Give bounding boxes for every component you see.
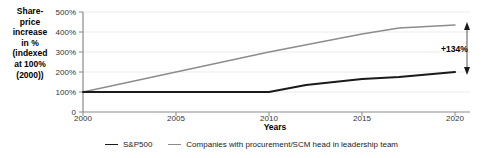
legend-swatch-icon <box>105 144 118 145</box>
legend-swatch-icon <box>168 144 181 145</box>
legend-item-sp500[interactable]: S&P500 <box>105 140 152 149</box>
legend-label: Companies with procurement/SCM head in l… <box>186 140 398 149</box>
x-axis-title: Years <box>215 122 335 132</box>
legend-item-procurement[interactable]: Companies with procurement/SCM head in l… <box>168 140 398 149</box>
y-axis <box>79 12 83 112</box>
x-axis <box>83 112 470 116</box>
legend-label: S&P500 <box>123 140 152 149</box>
share-price-line-chart: Share- price increase in % (indexed at 1… <box>0 0 503 158</box>
series-line-sp500 <box>83 72 455 92</box>
plot-area <box>0 0 503 158</box>
series-line-procurement <box>83 25 455 92</box>
chart-legend: S&P500 Companies with procurement/SCM he… <box>0 140 503 149</box>
delta-annotation-label: +134% <box>441 44 468 54</box>
